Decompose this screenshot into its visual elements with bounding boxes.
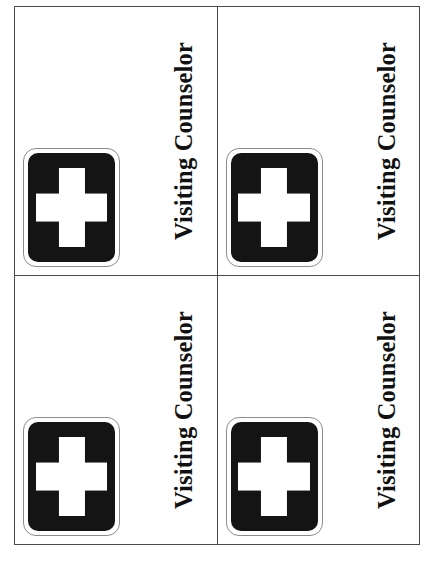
badge-card-top-left[interactable]: Visiting Counselor	[15, 7, 218, 276]
badge-title: Visiting Counselor	[375, 311, 400, 509]
icon-plate	[231, 153, 318, 262]
badge-title-container: Visiting Counselor	[361, 7, 413, 275]
badge-card-bottom-right[interactable]: Visiting Counselor	[218, 276, 421, 545]
badge-sheet: Visiting Counselor Visiting Counselor	[0, 0, 433, 569]
badge-title: Visiting Counselor	[172, 42, 197, 240]
icon-plate	[28, 153, 115, 262]
first-aid-cross-icon	[226, 148, 323, 267]
first-aid-cross-icon	[23, 148, 120, 267]
first-aid-cross-icon	[226, 417, 323, 536]
cross-vertical-bar	[261, 437, 287, 517]
icon-plate	[28, 422, 115, 531]
cross-vertical-bar	[58, 437, 84, 517]
badge-title-container: Visiting Counselor	[361, 276, 413, 544]
cross-vertical-bar	[261, 168, 287, 248]
cross-vertical-bar	[58, 168, 84, 248]
badge-card-top-right[interactable]: Visiting Counselor	[218, 7, 421, 276]
badge-title-container: Visiting Counselor	[159, 7, 211, 275]
badge-title: Visiting Counselor	[172, 311, 197, 509]
badge-title-container: Visiting Counselor	[159, 276, 211, 544]
first-aid-cross-icon	[23, 417, 120, 536]
icon-plate	[231, 422, 318, 531]
badge-card-bottom-left[interactable]: Visiting Counselor	[15, 276, 218, 545]
badge-card-grid: Visiting Counselor Visiting Counselor	[14, 6, 420, 545]
badge-title: Visiting Counselor	[375, 42, 400, 240]
